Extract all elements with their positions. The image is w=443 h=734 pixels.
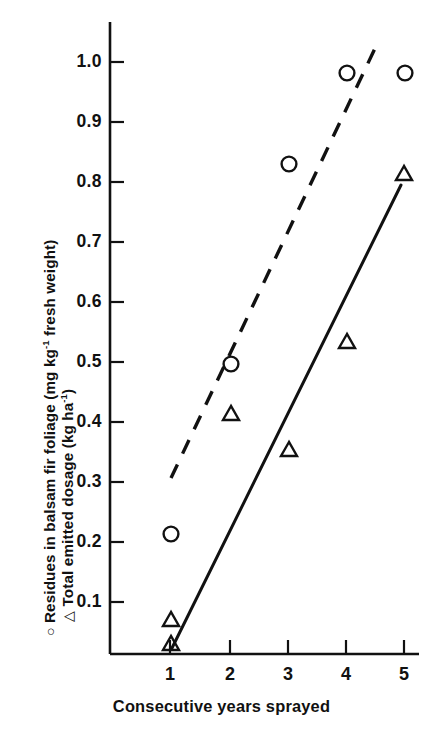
dosage-trend-line-solid bbox=[172, 185, 401, 648]
y-tick-marks bbox=[110, 62, 124, 602]
data-point-triangle-y1-high bbox=[163, 612, 179, 626]
data-point-circle-y2 bbox=[224, 357, 239, 372]
residues-markers bbox=[164, 66, 413, 542]
data-point-circle-y5 bbox=[398, 66, 413, 81]
data-point-circle-y4 bbox=[340, 66, 355, 81]
residues-trend-line-dashed bbox=[171, 40, 379, 478]
data-point-triangle-y3 bbox=[281, 442, 297, 456]
data-point-circle-y1 bbox=[164, 527, 179, 542]
data-point-triangle-y4 bbox=[339, 334, 355, 348]
figure-panel: ○ Residues in balsam fir foliage (mg kg-… bbox=[0, 0, 443, 734]
data-point-triangle-y5 bbox=[396, 166, 412, 180]
data-point-circle-y3 bbox=[282, 157, 297, 172]
data-point-triangle-y2 bbox=[223, 406, 239, 420]
x-axis-title: Consecutive years sprayed bbox=[0, 697, 443, 716]
x-tick-marks bbox=[170, 640, 404, 654]
plot-area bbox=[0, 0, 443, 734]
